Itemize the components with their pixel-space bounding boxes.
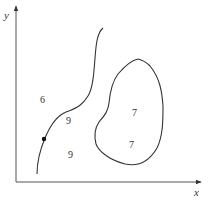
- diagram-canvas: y x 6 9 9 7 7: [0, 0, 211, 204]
- label-7-upper: 7: [132, 107, 137, 118]
- y-axis-label: y: [3, 9, 9, 21]
- marked-point: [42, 137, 46, 141]
- label-7-lower: 7: [129, 139, 134, 150]
- label-9-upper: 9: [66, 115, 71, 126]
- label-6: 6: [40, 94, 45, 105]
- x-axis-label: x: [193, 186, 199, 198]
- label-9-lower: 9: [68, 149, 73, 160]
